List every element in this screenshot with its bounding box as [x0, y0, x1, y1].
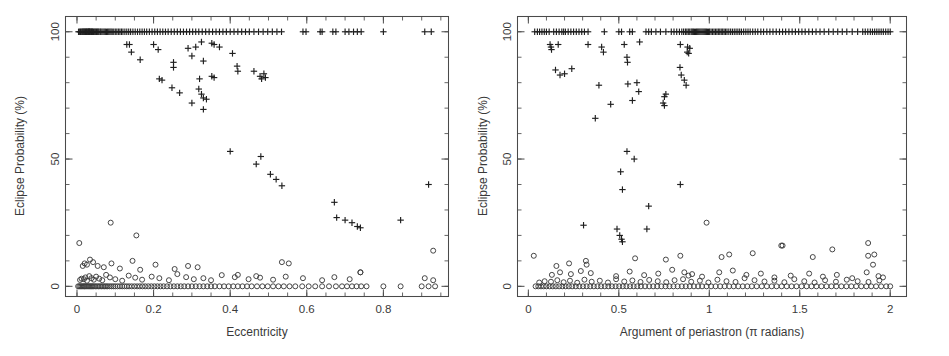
data-point-circle — [850, 276, 855, 281]
data-point-plus — [358, 29, 364, 35]
data-point-circle — [138, 267, 143, 272]
data-point-circle — [819, 284, 824, 289]
data-point-circle — [300, 276, 305, 281]
data-point-circle — [398, 284, 403, 289]
data-point-circle — [175, 272, 180, 277]
data-point-plus — [397, 217, 403, 223]
data-point-plus — [176, 90, 182, 96]
data-point-plus — [253, 161, 259, 167]
data-point-plus — [685, 50, 691, 56]
data-point-circle — [281, 284, 286, 289]
data-point-plus — [189, 53, 195, 59]
data-point-plus — [262, 74, 268, 80]
y-tick-label: 100 — [502, 22, 514, 41]
data-point-plus — [636, 88, 642, 94]
data-point-plus — [155, 46, 161, 52]
y-axis-title-right: Eclipse Probability (%) — [476, 96, 490, 216]
data-point-plus — [150, 41, 156, 47]
data-point-circle — [419, 284, 424, 289]
data-point-circle — [381, 284, 386, 289]
data-point-circle — [754, 284, 759, 289]
data-point-circle — [431, 248, 436, 253]
data-point-circle — [209, 278, 214, 283]
y-tick-label: 100 — [50, 22, 62, 41]
x-tick-label: 0 — [74, 303, 80, 315]
data-point-circle — [555, 278, 560, 283]
data-point-plus — [561, 71, 567, 77]
data-point-plus — [251, 68, 257, 74]
data-point-circle — [313, 284, 318, 289]
y-tick-label: 0 — [50, 283, 62, 289]
data-point-circle — [789, 284, 794, 289]
data-point-circle — [333, 284, 338, 289]
data-point-plus — [380, 29, 386, 35]
data-point-circle — [829, 284, 834, 289]
data-point-circle — [219, 273, 224, 278]
data-point-plus — [303, 29, 309, 35]
data-point-circle — [332, 275, 337, 280]
data-point-plus — [193, 44, 199, 50]
data-point-plus — [235, 68, 241, 74]
data-point-plus — [569, 65, 575, 71]
data-point-plus — [331, 199, 337, 205]
data-point-circle — [347, 277, 352, 282]
data-point-plus — [601, 29, 607, 35]
data-point-circle — [730, 268, 735, 273]
data-point-circle — [839, 284, 844, 289]
data-point-circle — [320, 278, 325, 283]
data-point-circle — [700, 274, 705, 279]
data-point-circle — [433, 284, 438, 289]
y-tick-label: 50 — [50, 153, 62, 166]
data-point-circle — [149, 274, 154, 279]
data-point-plus — [614, 226, 620, 232]
data-point-plus — [189, 100, 195, 106]
data-point-plus — [198, 39, 204, 45]
data-point-plus — [279, 183, 285, 189]
x-tick-label: 1 — [706, 303, 712, 315]
data-point-plus — [428, 29, 434, 35]
data-point-circle — [704, 220, 709, 225]
y-tick-labels-left: 050100 — [50, 22, 62, 289]
data-point-circle — [578, 269, 583, 274]
data-point-circle — [542, 279, 547, 284]
data-point-circle — [283, 274, 288, 279]
data-point-circle — [549, 272, 554, 277]
data-point-circle — [117, 266, 122, 271]
data-point-circle — [622, 279, 627, 284]
data-point-circle — [866, 241, 871, 246]
data-point-circle — [246, 277, 251, 282]
data-point-circle — [614, 274, 619, 279]
data-point-circle — [113, 277, 118, 282]
data-point-plus — [596, 82, 602, 88]
data-point-circle — [265, 284, 270, 289]
data-point-circle — [871, 262, 876, 267]
data-point-plus — [629, 97, 635, 103]
data-point-plus — [634, 79, 640, 85]
data-point-circle — [191, 277, 196, 282]
chart-panel-eccentricity: 00.20.40.60.8 050100 Eccentricity Eclips… — [0, 0, 474, 356]
y-tickmarks-left — [66, 32, 449, 287]
data-markers-right — [531, 29, 893, 289]
data-point-circle — [77, 241, 82, 246]
data-point-circle — [855, 279, 860, 284]
data-point-circle — [120, 278, 125, 283]
data-point-circle — [327, 284, 332, 289]
data-point-circle — [724, 279, 729, 284]
data-point-plus — [677, 64, 683, 70]
data-point-circle — [287, 284, 292, 289]
data-point-plus — [557, 72, 563, 78]
data-point-plus — [354, 223, 360, 229]
data-point-circle — [95, 263, 100, 268]
data-point-circle — [769, 284, 774, 289]
data-point-circle — [531, 253, 536, 258]
data-point-circle — [681, 277, 686, 282]
data-point-plus — [258, 153, 264, 159]
data-point-circle — [788, 273, 793, 278]
data-point-circle — [656, 271, 661, 276]
data-point-circle — [130, 258, 135, 263]
data-point-plus — [349, 219, 355, 225]
chart-svg-right: 00.511.52 050100 Argument of periastron … — [475, 0, 949, 356]
data-point-circle — [715, 277, 720, 282]
data-point-plus — [645, 203, 651, 209]
data-point-circle — [358, 270, 363, 275]
